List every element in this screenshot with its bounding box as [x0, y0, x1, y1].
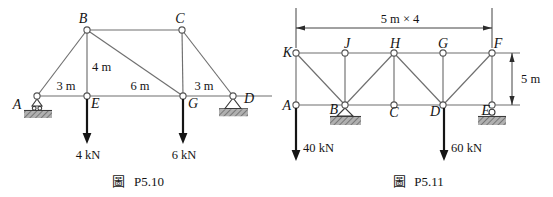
- joint-K: [293, 50, 299, 56]
- ground-hatch: [219, 109, 248, 116]
- joint-A2: [293, 102, 299, 108]
- joint-label-E2: E: [480, 103, 490, 118]
- member-KB: [296, 53, 345, 105]
- member-HB: [345, 53, 394, 105]
- joint-D: [230, 93, 236, 99]
- joint-label-D2: D: [429, 104, 440, 119]
- truss-p511: K J H G F A B C D E 5 m × 4 5 m 40 kN 60…: [281, 8, 540, 189]
- joint-label-C2: C: [389, 105, 399, 120]
- truss-p510: A B C E G D 3 m 6 m 3 m 4 m 4 kN 6 kN 圖 …: [12, 11, 272, 189]
- joint-E: [84, 93, 90, 99]
- joint-A: [34, 93, 40, 99]
- figure-char-p510: 圖: [112, 174, 125, 189]
- load-label-G: 6 kN: [172, 148, 197, 162]
- ground-hatch: [478, 117, 506, 125]
- dimension-label-EG: 6 m: [130, 79, 149, 93]
- joint-label-E: E: [90, 96, 100, 111]
- joint-label-D: D: [243, 91, 254, 106]
- member-HD: [394, 53, 443, 105]
- truss-diagrams-canvas: A B C E G D 3 m 6 m 3 m 4 m 4 kN 6 kN 圖 …: [0, 0, 553, 197]
- joint-label-A: A: [12, 97, 22, 112]
- load-label-E: 4 kN: [76, 148, 101, 162]
- dimension-right: [509, 53, 514, 105]
- roller-support-icon-A: [24, 99, 52, 118]
- load-arrow-G: [179, 99, 188, 144]
- joint-label-A2: A: [281, 98, 291, 113]
- member-CG: [182, 30, 183, 96]
- joint-B: [84, 27, 90, 33]
- joint-label-H: H: [389, 36, 401, 51]
- joint-label-G2: G: [438, 36, 448, 51]
- joint-label-J: J: [344, 36, 351, 51]
- ground-hatch: [330, 117, 361, 125]
- joint-label-C: C: [175, 11, 185, 26]
- joint-C: [179, 27, 185, 33]
- dimension-label-GD: 3 m: [194, 79, 213, 93]
- joint-label-G: G: [188, 96, 198, 111]
- figure-caption-p510: P5.10: [134, 174, 164, 189]
- load-label-D: 60 kN: [451, 141, 482, 155]
- dimension-label-top: 5 m × 4: [381, 12, 420, 26]
- figure-char-p511: 圖: [393, 174, 406, 189]
- joint-label-K: K: [282, 45, 293, 60]
- load-label-A: 40 kN: [303, 141, 334, 155]
- load-arrow-D: [440, 108, 449, 161]
- dimension-label-BE: 4 m: [92, 60, 111, 74]
- member-FD: [443, 53, 492, 105]
- dimension-label-right: 5 m: [521, 72, 540, 86]
- joint-B2: [342, 102, 348, 108]
- dimension-label-AE: 3 m: [56, 79, 75, 93]
- joint-label-F: F: [493, 36, 503, 51]
- load-arrow-A: [292, 108, 301, 161]
- joint-label-B2: B: [329, 102, 338, 117]
- figure-caption-p511: P5.11: [414, 174, 444, 189]
- joint-label-B: B: [79, 11, 88, 26]
- joint-D2: [440, 102, 446, 108]
- textbook-figure-pair: A B C E G D 3 m 6 m 3 m 4 m 4 kN 6 kN 圖 …: [0, 0, 553, 197]
- joint-G: [180, 93, 186, 99]
- ground-hatch: [24, 111, 52, 118]
